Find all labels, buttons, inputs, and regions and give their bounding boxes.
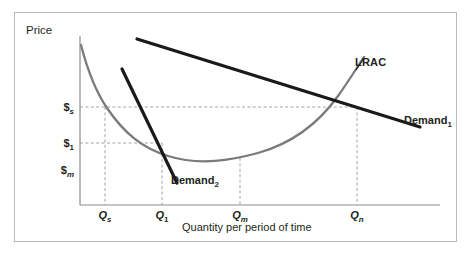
y-tick-price-s: $s (40, 101, 74, 116)
y-tick-price-1: $1 (40, 137, 74, 152)
demand2-label-base: Demand (171, 174, 214, 186)
x-tick-q-1-base: Q (156, 209, 165, 221)
lrac-label: LRAC (355, 57, 386, 68)
y-tick-price-1-sub: 1 (70, 143, 74, 152)
y-tick-price-m: $m (40, 164, 74, 179)
x-tick-q-n: Qn (337, 209, 377, 224)
x-tick-q-n-sub: n (359, 215, 364, 224)
x-tick-q-s-sub: s (107, 215, 111, 224)
y-axis-title: Price (26, 25, 52, 37)
x-tick-q-n-base: Q (350, 209, 359, 221)
demand2-line (122, 69, 177, 183)
lrac-curve (81, 45, 364, 161)
x-tick-q-m-base: Q (232, 209, 241, 221)
demand1-label-base: Demand (404, 114, 447, 126)
x-axis-title: Quantity per period of time (182, 222, 312, 233)
x-tick-q-s: Qs (85, 209, 125, 224)
x-tick-q-s-base: Q (99, 209, 108, 221)
y-tick-price-s-sub: s (70, 107, 74, 116)
demand1-label-sub: 1 (447, 120, 451, 129)
y-tick-price-m-sub: m (67, 170, 74, 179)
figure-root: Price $s $1 $m Qs Q1 Qm Qn LRAC Demand1 … (0, 0, 472, 256)
x-tick-q-1-sub: 1 (164, 215, 168, 224)
demand1-label: Demand1 (404, 115, 452, 129)
demand2-label-sub: 2 (214, 180, 218, 189)
x-tick-q-1: Q1 (142, 209, 182, 224)
demand1-line (137, 39, 420, 127)
demand2-label: Demand2 (171, 175, 219, 189)
